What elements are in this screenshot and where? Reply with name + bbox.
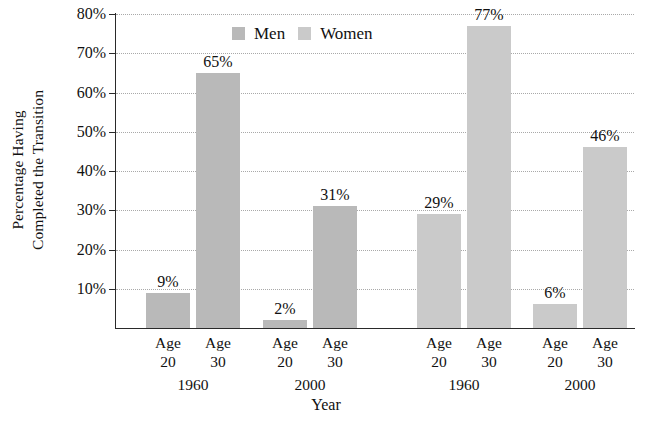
gridline	[116, 93, 634, 94]
y-axis-tick	[109, 289, 116, 290]
x-axis-category-age-number: 20	[263, 352, 307, 371]
x-axis-group-label: 1960	[417, 375, 511, 394]
x-axis-group-label: 1960	[146, 375, 240, 394]
y-axis-tick-label: 70%	[77, 45, 106, 61]
bar: 6%	[533, 304, 577, 328]
x-axis-category-label: Age30	[467, 333, 511, 371]
bar-value-label: 6%	[544, 285, 565, 301]
legend-label: Men	[254, 25, 285, 42]
bar-value-label: 77%	[474, 7, 503, 23]
y-axis-tick-label: 10%	[77, 281, 106, 297]
x-axis-category-age-word: Age	[146, 333, 190, 352]
legend-entry: Men	[232, 25, 285, 42]
y-axis-tick	[109, 14, 116, 15]
x-axis-line	[115, 328, 635, 329]
gridline	[116, 250, 634, 251]
x-axis-category-age-word: Age	[417, 333, 461, 352]
x-axis-category-age-word: Age	[263, 333, 307, 352]
legend: MenWomen	[228, 23, 377, 44]
bar-value-label: 31%	[320, 187, 349, 203]
bar: 46%	[583, 147, 627, 328]
x-axis-category-age-word: Age	[313, 333, 357, 352]
x-axis-category-label: Age20	[146, 333, 190, 371]
y-axis-title-line1: Percentage Having	[8, 90, 28, 250]
x-axis-category-age-number: 20	[146, 352, 190, 371]
bar: 65%	[196, 73, 240, 328]
y-axis-tick	[109, 171, 116, 172]
x-axis-category-age-word: Age	[196, 333, 240, 352]
plot-area: 80%70%60%50%40%30%20%10% 9%65%2%31%29%77…	[116, 14, 634, 328]
x-axis-category-label: Age30	[196, 333, 240, 371]
x-axis-category-label: Age20	[417, 333, 461, 371]
x-axis-title: Year	[0, 396, 652, 414]
x-axis-category-age-number: 30	[583, 352, 627, 371]
y-axis-tick-label: 40%	[77, 163, 106, 179]
x-axis-group-label: 2000	[533, 375, 627, 394]
x-axis-category-age-word: Age	[467, 333, 511, 352]
y-axis-tick	[109, 250, 116, 251]
x-axis-category-label: Age30	[583, 333, 627, 371]
x-axis-category-age-word: Age	[583, 333, 627, 352]
y-axis-tick	[109, 53, 116, 54]
legend-swatch-icon	[232, 27, 245, 40]
x-axis-category-age-number: 30	[196, 352, 240, 371]
x-axis-category-label: Age30	[313, 333, 357, 371]
y-axis-title-line2: Completed the Transition	[28, 90, 48, 250]
bar-value-label: 46%	[590, 128, 619, 144]
bar: 2%	[263, 320, 307, 328]
x-axis-category-label: Age20	[533, 333, 577, 371]
y-axis-tick-label: 20%	[77, 242, 106, 258]
x-axis-group-label: 2000	[263, 375, 357, 394]
bar-chart: Percentage Having Completed the Transiti…	[0, 0, 652, 433]
x-axis-categories: Age20Age30Age20Age30Age20Age30Age20Age30…	[116, 333, 634, 395]
bar-value-label: 2%	[274, 301, 295, 317]
gridline	[116, 53, 634, 54]
bar: 31%	[313, 206, 357, 328]
y-axis-title: Percentage Having Completed the Transiti…	[0, 0, 56, 340]
x-axis-category-age-number: 30	[313, 352, 357, 371]
gridline	[116, 14, 634, 15]
gridline	[116, 132, 634, 133]
gridline	[116, 210, 634, 211]
x-axis-category-age-number: 20	[417, 352, 461, 371]
y-axis-tick	[109, 93, 116, 94]
legend-label: Women	[320, 25, 372, 42]
y-axis-tick-label: 30%	[77, 202, 106, 218]
x-axis-category-age-number: 30	[467, 352, 511, 371]
x-axis-category-age-number: 20	[533, 352, 577, 371]
bar: 29%	[417, 214, 461, 328]
y-axis-tick-label: 80%	[77, 6, 106, 22]
gridline	[116, 171, 634, 172]
bar-value-label: 65%	[203, 54, 232, 70]
legend-swatch-icon	[298, 27, 311, 40]
bar-value-label: 29%	[424, 195, 453, 211]
x-axis-category-label: Age20	[263, 333, 307, 371]
y-axis-tick-label: 50%	[77, 124, 106, 140]
bar-value-label: 9%	[157, 274, 178, 290]
legend-entry: Women	[298, 25, 372, 42]
bar: 9%	[146, 293, 190, 328]
x-axis-category-age-word: Age	[533, 333, 577, 352]
y-axis-tick	[109, 132, 116, 133]
y-axis-tick-label: 60%	[77, 85, 106, 101]
y-axis-tick	[109, 210, 116, 211]
bar: 77%	[467, 26, 511, 328]
